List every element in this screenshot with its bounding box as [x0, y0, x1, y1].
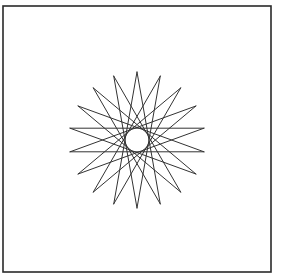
- star-polygon-18-8: [70, 72, 204, 208]
- star-edge: [78, 106, 181, 192]
- star-edge: [78, 106, 204, 152]
- star-edge: [70, 106, 196, 152]
- star-edge: [93, 106, 196, 192]
- star-edge: [78, 128, 204, 174]
- star-edge: [70, 128, 196, 174]
- star-polygon-figure: [0, 0, 282, 277]
- star-edge: [78, 88, 181, 174]
- figure-frame: [3, 6, 271, 272]
- star-edge: [93, 88, 196, 174]
